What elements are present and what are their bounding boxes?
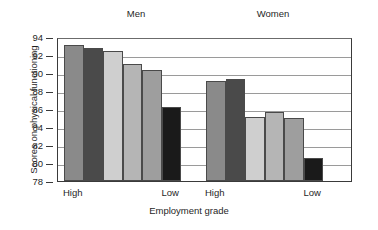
group-title-women: Women bbox=[238, 8, 308, 19]
x-tick-label-low-men: Low bbox=[145, 187, 195, 198]
y-tick-label: 82 bbox=[0, 140, 43, 152]
y-tick: 90 bbox=[0, 68, 57, 80]
bar bbox=[304, 158, 324, 181]
bar bbox=[226, 79, 246, 181]
bar-chart: Men Women Scores on physical functioning… bbox=[0, 0, 378, 230]
y-tick-mark bbox=[46, 182, 53, 183]
y-tick: 88 bbox=[0, 86, 57, 98]
bar bbox=[284, 118, 304, 181]
y-tick-label: 90 bbox=[0, 68, 43, 80]
y-tick-label: 86 bbox=[0, 104, 43, 116]
y-tick-label: 84 bbox=[0, 122, 43, 134]
y-tick: 84 bbox=[0, 122, 57, 134]
y-tick-mark bbox=[46, 110, 53, 111]
y-tick-mark bbox=[46, 38, 53, 39]
bar bbox=[206, 81, 226, 181]
x-tick-label-high-men: High bbox=[48, 187, 98, 198]
bar bbox=[84, 48, 104, 181]
bar bbox=[265, 112, 285, 181]
y-tick-label: 92 bbox=[0, 50, 43, 62]
bar bbox=[245, 117, 265, 181]
y-tick: 86 bbox=[0, 104, 57, 116]
y-tick: 80 bbox=[0, 158, 57, 170]
y-tick-mark bbox=[46, 56, 53, 57]
group-title-men: Men bbox=[106, 8, 166, 19]
y-tick-label: 78 bbox=[0, 176, 43, 188]
y-tick: 92 bbox=[0, 50, 57, 62]
y-tick-label: 80 bbox=[0, 158, 43, 170]
x-axis-title: Employment grade bbox=[0, 205, 378, 216]
bar bbox=[142, 70, 162, 181]
x-tick-label-low-women: Low bbox=[287, 187, 337, 198]
x-tick-label-high-women: High bbox=[190, 187, 240, 198]
y-tick-mark bbox=[46, 164, 53, 165]
bar bbox=[103, 51, 123, 181]
y-tick-label: 88 bbox=[0, 86, 43, 98]
bar bbox=[162, 107, 182, 181]
y-tick: 94 bbox=[0, 32, 57, 44]
y-tick-mark bbox=[46, 128, 53, 129]
bars-layer bbox=[58, 39, 351, 181]
y-tick: 82 bbox=[0, 140, 57, 152]
y-tick-label: 94 bbox=[0, 32, 43, 44]
y-tick-mark bbox=[46, 92, 53, 93]
y-tick-mark bbox=[46, 146, 53, 147]
y-tick-mark bbox=[46, 74, 53, 75]
plot-area bbox=[57, 38, 352, 182]
bar bbox=[123, 64, 143, 181]
bar bbox=[64, 45, 84, 181]
